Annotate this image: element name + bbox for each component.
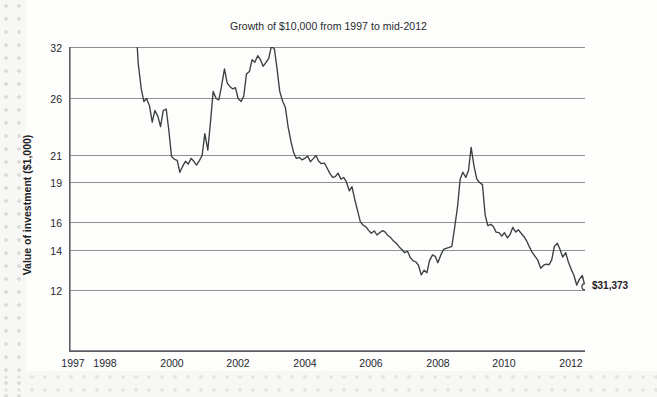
- plot-area: [69, 47, 585, 352]
- x-tick-label: 1998: [93, 357, 116, 369]
- x-tick-label: 2006: [359, 357, 382, 369]
- x-tick-label: 2008: [426, 357, 449, 369]
- y-tick-label: 14: [50, 245, 62, 257]
- scan-speckle-bottom: [0, 371, 657, 397]
- y-tick-label: 32: [50, 42, 62, 54]
- page-title: Growth of $10,000 from 1997 to mid-2012: [0, 20, 657, 32]
- y-tick-label: 26: [50, 93, 62, 105]
- x-tick-label: 1997: [61, 357, 84, 369]
- chart-figure: Growth of $10,000 from 1997 to mid-2012 …: [0, 0, 657, 397]
- endpoint-marker-icon: [582, 284, 585, 290]
- y-tick-label: 19: [50, 177, 62, 189]
- y-axis-tick-labels: 32 26 21 19 16 14 12: [30, 0, 62, 397]
- x-tick-label: 2004: [293, 357, 316, 369]
- x-tick-label: 2012: [559, 357, 582, 369]
- line-chart-svg: [69, 47, 585, 352]
- x-tick-label: 2000: [160, 357, 183, 369]
- endpoint-value-label: $31,373: [592, 280, 628, 291]
- y-tick-label: 21: [50, 150, 62, 162]
- x-tick-label: 2002: [226, 357, 249, 369]
- y-tick-label: 12: [50, 285, 62, 297]
- y-tick-label: 16: [50, 217, 62, 229]
- x-tick-label: 2010: [492, 357, 515, 369]
